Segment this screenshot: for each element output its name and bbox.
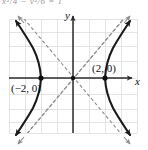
y-axis-label: y xyxy=(64,9,70,21)
vertex-point-right xyxy=(102,75,107,80)
vertex-point-left xyxy=(38,75,43,80)
origin-point xyxy=(71,76,75,80)
cropped-caption-text: x²/4 − y²/6 = 1 xyxy=(2,0,63,4)
vertex-label-right: (2, 0) xyxy=(92,62,116,75)
hyperbola-plot: (−2, 0) (2, 0) x y xyxy=(0,0,148,150)
vertex-label-left: (−2, 0) xyxy=(11,82,41,95)
hyperbola-figure: x²/4 − y²/6 = 1 xyxy=(0,0,148,150)
x-axis-label: x xyxy=(134,75,140,87)
